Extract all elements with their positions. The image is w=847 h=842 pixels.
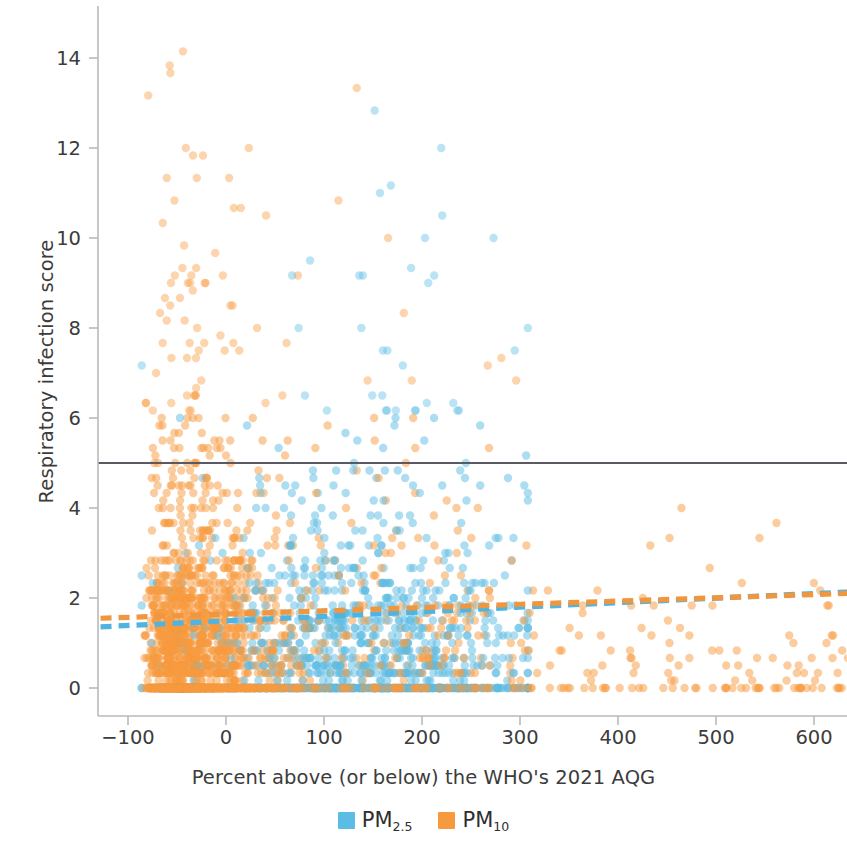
legend-swatch-icon [438, 812, 455, 829]
legend-label-main: PM [362, 808, 393, 832]
legend-item-pm25[interactable]: PM2.5 [338, 810, 413, 831]
legend-swatch-icon [338, 812, 355, 829]
legend-label: PM10 [462, 810, 509, 831]
y-axis-title: Respiratory infection score [35, 222, 58, 522]
x-axis-title: Percent above (or below) the WHO's 2021 … [0, 766, 847, 789]
x-tick-label: 600 [754, 726, 847, 749]
legend-label-subscript: 10 [493, 819, 509, 834]
y-tick-label: 10 [11, 227, 81, 250]
y-tick-label: 4 [11, 497, 81, 520]
y-tick-label: 14 [11, 47, 81, 70]
respiratory-infection-scatter-chart: Respiratory infection score Percent abov… [0, 0, 847, 842]
legend-label-subscript: 2.5 [393, 819, 413, 834]
legend-label-main: PM [462, 808, 493, 832]
y-tick-label: 8 [11, 317, 81, 340]
legend-label: PM2.5 [362, 810, 413, 831]
plot-area [0, 0, 847, 842]
y-tick-label: 6 [11, 407, 81, 430]
y-tick-label: 0 [11, 677, 81, 700]
legend-item-pm10[interactable]: PM10 [438, 810, 509, 831]
y-tick-label: 12 [11, 137, 81, 160]
y-tick-label: 2 [11, 587, 81, 610]
chart-legend: PM2.5PM10 [0, 810, 847, 831]
